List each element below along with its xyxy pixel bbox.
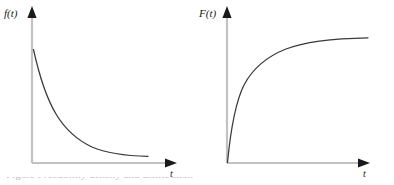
x-axis-arrowhead: [165, 158, 177, 167]
x-axis-arrowhead: [358, 158, 370, 167]
y-axis-arrowhead: [222, 6, 231, 18]
figure-caption: Figure Probability density and distribut…: [0, 177, 394, 185]
y-axis-label: f(t): [4, 7, 18, 20]
distribution-panel: F(t) t: [197, 0, 394, 178]
y-axis-arrowhead: [27, 6, 36, 18]
distribution-curve: [228, 38, 369, 163]
y-axis-label: F(t): [198, 7, 216, 20]
density-curve: [34, 50, 149, 157]
figure-pair: f(t) t F(t) t Figure Probability density…: [0, 0, 394, 185]
density-panel: f(t) t: [0, 0, 197, 178]
figure-caption-text: Figure Probability density and distribut…: [6, 177, 193, 180]
